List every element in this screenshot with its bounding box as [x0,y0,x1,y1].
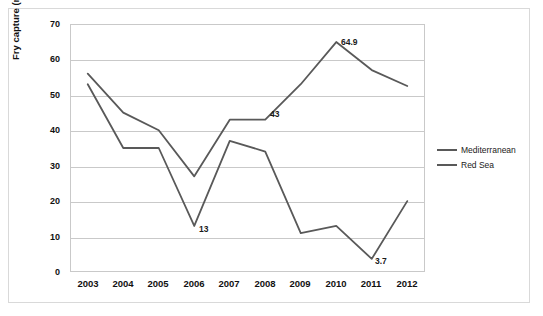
x-tick-label-2005: 2005 [138,278,178,289]
legend-line-swatch-icon [437,164,457,166]
x-tick-label-2009: 2009 [280,278,320,289]
x-tick-label-2008: 2008 [245,278,285,289]
legend-item-mediterranean[interactable]: Mediterranean [437,142,535,157]
legend-item-red-sea[interactable]: Red Sea [437,157,535,172]
series-line-mediterranean [88,42,408,176]
x-tick-label-2004: 2004 [103,278,143,289]
data-label-13: 13 [199,224,208,234]
data-label-3-7: 3.7 [375,256,387,266]
legend-label-red-sea: Red Sea [461,160,494,170]
legend-line-swatch-icon [437,149,457,151]
x-tick-label-2012: 2012 [387,278,427,289]
chart-legend: Mediterranean Red Sea [437,142,535,172]
legend-label-mediterranean: Mediterranean [461,145,516,155]
series-line-red-sea [88,84,408,259]
x-tick-label-2006: 2006 [174,278,214,289]
data-label-43: 43 [270,109,279,119]
x-tick-label-2011: 2011 [351,278,391,289]
x-tick-label-2003: 2003 [68,278,108,289]
chart-figure: Fry capture (million) 70 60 50 40 30 20 … [0,0,543,316]
x-tick-label-2007: 2007 [209,278,249,289]
x-tick-label-2010: 2010 [316,278,356,289]
data-label-64-9: 64.9 [341,37,358,47]
